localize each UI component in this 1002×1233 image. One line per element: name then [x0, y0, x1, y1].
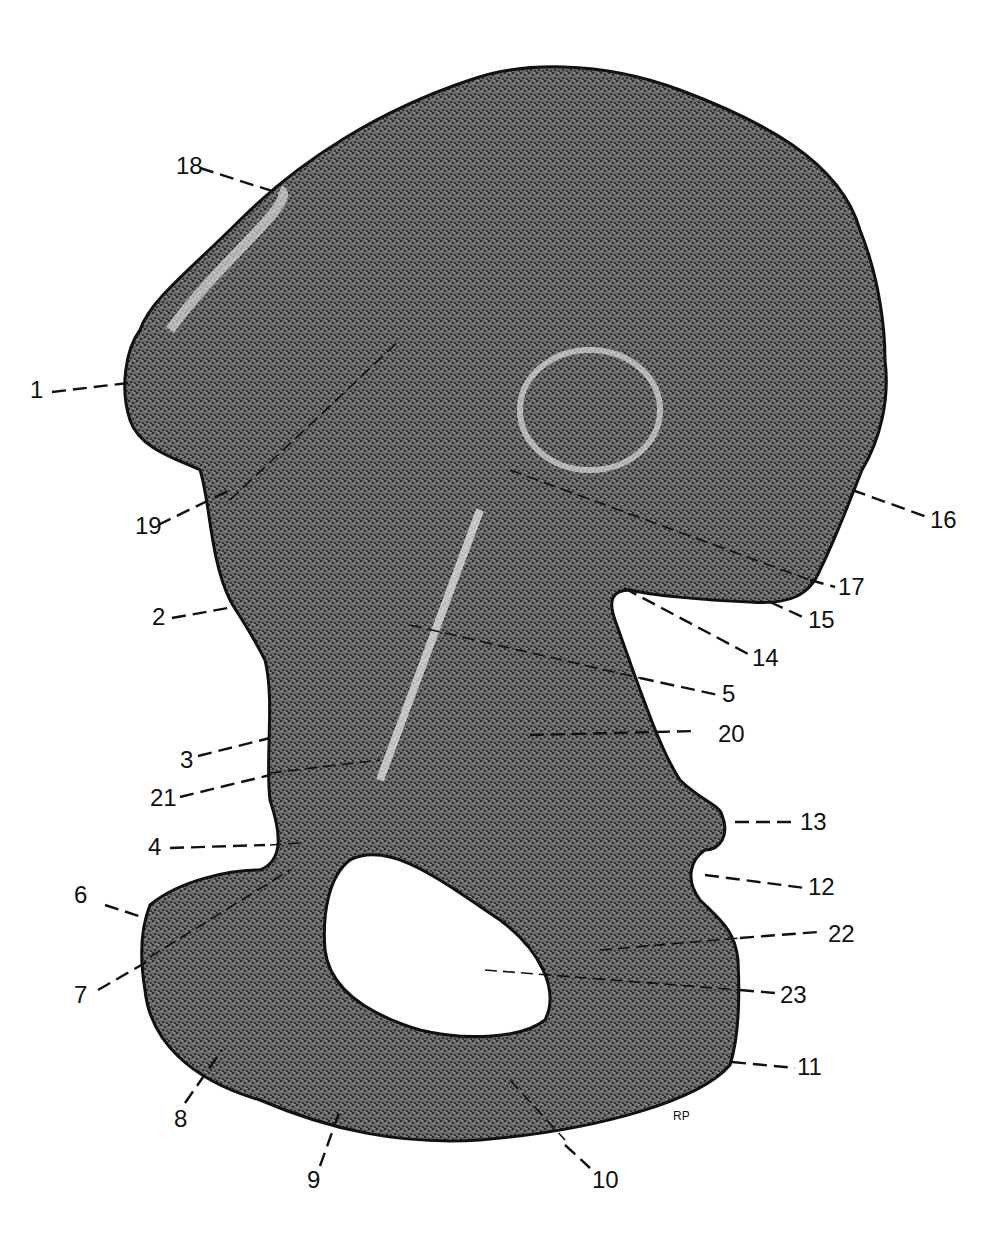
- leader-5: [640, 678, 718, 695]
- label-18: 18: [176, 152, 203, 179]
- label-8: 8: [174, 1105, 187, 1132]
- leader-4: [170, 845, 265, 848]
- label-3: 3: [180, 746, 193, 773]
- leader-18: [200, 168, 275, 192]
- leader-12: [705, 875, 805, 888]
- leader-16: [852, 490, 930, 518]
- label-13: 13: [800, 808, 827, 835]
- leader-23: [740, 990, 775, 993]
- leader-22: [740, 932, 818, 938]
- label-6: 6: [74, 881, 87, 908]
- label-19: 19: [135, 512, 162, 539]
- artist-signature: RP: [673, 1109, 690, 1123]
- label-23: 23: [780, 981, 807, 1008]
- label-14: 14: [752, 644, 779, 671]
- label-15: 15: [808, 606, 835, 633]
- label-2: 2: [152, 603, 165, 630]
- label-16: 16: [930, 506, 957, 533]
- leader-10: [565, 1145, 590, 1168]
- label-12: 12: [808, 873, 835, 900]
- label-4: 4: [148, 833, 161, 860]
- leader-2: [172, 608, 228, 618]
- leader-3: [198, 738, 270, 756]
- leader-6: [105, 905, 145, 918]
- label-21: 21: [150, 784, 177, 811]
- hip-bone-figure: 1 2 3 4 5 6 7 8 9 10 11 12 13 14 15 16 1…: [0, 0, 1002, 1233]
- leader-1: [52, 383, 128, 392]
- label-11: 11: [797, 1053, 822, 1080]
- label-20: 20: [718, 720, 745, 747]
- label-10: 10: [592, 1166, 619, 1193]
- label-1: 1: [30, 376, 43, 403]
- leader-21: [180, 775, 270, 797]
- label-17: 17: [838, 573, 865, 600]
- label-5: 5: [722, 680, 735, 707]
- label-22: 22: [828, 920, 855, 947]
- label-9: 9: [307, 1166, 320, 1193]
- label-7: 7: [74, 981, 87, 1008]
- leader-11: [732, 1062, 795, 1068]
- leader-15: [770, 602, 805, 618]
